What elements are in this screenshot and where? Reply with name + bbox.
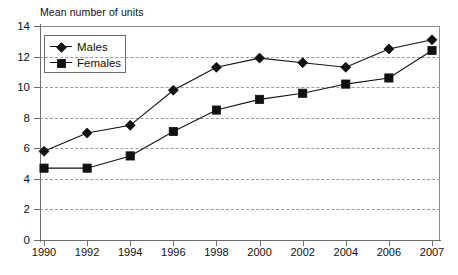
y-tick-label-12: 12 xyxy=(0,51,30,63)
legend-label-females: Females xyxy=(77,57,121,69)
y-tick-label-14: 14 xyxy=(0,20,30,32)
diamond-icon xyxy=(56,42,67,53)
x-tick-label-2007: 2007 xyxy=(420,246,444,258)
legend-line-males xyxy=(50,46,72,47)
chart-container: Mean number of units 02468101214 1990199… xyxy=(0,0,458,275)
y-tick-14 xyxy=(34,26,41,27)
x-tick-label-1996: 1996 xyxy=(161,246,185,258)
y-tick-8 xyxy=(34,118,41,119)
y-tick-10 xyxy=(34,87,41,88)
x-tick-label-1998: 1998 xyxy=(204,246,228,258)
legend-line-females xyxy=(50,62,72,63)
x-axis-line xyxy=(39,240,441,241)
y-tick-label-6: 6 xyxy=(0,142,30,154)
x-tick-label-2006: 2006 xyxy=(377,246,401,258)
square-icon xyxy=(56,58,67,69)
x-tick-label-1992: 1992 xyxy=(75,246,99,258)
gridline-y-10 xyxy=(40,87,440,88)
y-tick-4 xyxy=(34,179,41,180)
gridline-y-4 xyxy=(40,179,440,180)
x-tick-label-1994: 1994 xyxy=(118,246,142,258)
y-tick-label-8: 8 xyxy=(0,112,30,124)
x-tick-label-2000: 2000 xyxy=(247,246,271,258)
y-tick-label-0: 0 xyxy=(0,234,30,246)
y-tick-label-10: 10 xyxy=(0,81,30,93)
y-tick-6 xyxy=(34,148,41,149)
x-tick-label-2002: 2002 xyxy=(290,246,314,258)
gridline-y-6 xyxy=(40,148,440,149)
y-tick-12 xyxy=(34,57,41,58)
x-tick-label-1990: 1990 xyxy=(32,246,56,258)
y-tick-2 xyxy=(34,209,41,210)
legend-label-males: Males xyxy=(77,41,108,53)
y-tick-label-4: 4 xyxy=(0,173,30,185)
chart-title: Mean number of units xyxy=(40,6,144,18)
gridline-y-2 xyxy=(40,209,440,210)
y-tick-0 xyxy=(34,240,41,241)
chart-legend: Males Females xyxy=(44,35,126,73)
legend-item-females: Females xyxy=(50,55,121,70)
legend-item-males: Males xyxy=(50,39,108,54)
x-tick-label-2004: 2004 xyxy=(334,246,358,258)
y-tick-label-2: 2 xyxy=(0,203,30,215)
gridline-y-8 xyxy=(40,118,440,119)
